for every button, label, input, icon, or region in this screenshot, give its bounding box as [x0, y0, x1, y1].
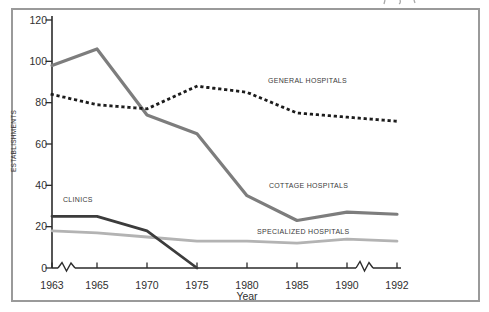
y-axis-title: ESTABLISHMENTS — [10, 110, 17, 172]
x-tick-label-1963: 1963 — [32, 280, 72, 291]
series-label-general-hospitals: GENERAL HOSPITALS — [268, 77, 347, 84]
y-tick-label-60: 60 — [0, 139, 47, 150]
series-label-clinics: CLINICS — [63, 196, 93, 203]
cropped-text-artifact — [384, 0, 415, 4]
figure: 120 100 80 60 40 20 0 1963 1965 1970 197… — [0, 0, 489, 312]
x-tick-label-1965: 1965 — [77, 280, 117, 291]
y-tick-label-40: 40 — [0, 180, 47, 191]
x-tick-label-1970: 1970 — [127, 280, 167, 291]
x-axis-title: Year — [227, 291, 267, 302]
x-tick-label-1992: 1992 — [377, 280, 417, 291]
x-axis-break-left — [58, 263, 75, 272]
y-tick-label-80: 80 — [0, 97, 47, 108]
series-line-cottage-hospitals — [52, 49, 397, 221]
y-tick-label-120: 120 — [0, 15, 47, 26]
y-tick-label-0: 0 — [0, 263, 47, 274]
x-tick-label-1985: 1985 — [277, 280, 317, 291]
y-tick-label-20: 20 — [0, 221, 47, 232]
x-tick-label-1975: 1975 — [177, 280, 217, 291]
series-label-specialized-hospitals: SPECIALIZED HOSPITALS — [257, 228, 350, 235]
x-axis-break-right — [356, 262, 373, 272]
y-tick-label-100: 100 — [0, 56, 47, 67]
series-label-cottage-hospitals: COTTAGE HOSPITALS — [269, 182, 348, 189]
chart-canvas — [0, 0, 489, 312]
x-tick-label-1990: 1990 — [327, 280, 367, 291]
series-line-general-hospitals — [52, 86, 397, 121]
series-line-clinics — [52, 216, 197, 268]
